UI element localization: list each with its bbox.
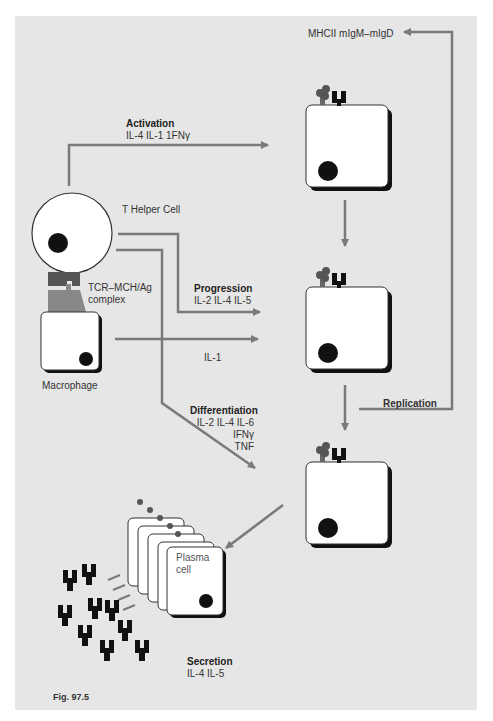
b-cell-3 xyxy=(306,442,392,548)
mhc-label: MHCII mIgM–mIgD xyxy=(308,28,394,40)
b-cell-2 xyxy=(306,267,392,373)
t-helper-label: T Helper Cell xyxy=(122,204,180,216)
il1-label: IL-1 xyxy=(204,352,221,364)
mhc-ag xyxy=(48,284,86,312)
plasma-cell-label: Plasmacell xyxy=(176,552,209,576)
differentiation-label: DifferentiationIL-2 IL-4 IL-6IFNγTNF xyxy=(190,405,254,453)
t-helper-cell xyxy=(32,193,112,273)
tcr-complex-label: TCR–MCH/Agcomplex xyxy=(88,282,152,306)
b-cell-1 xyxy=(306,85,392,191)
figure-caption: Fig. 97.5 xyxy=(53,691,89,703)
activation-arrow xyxy=(69,145,268,186)
arrow-to-plasma xyxy=(226,505,283,548)
activation-label: ActivationIL-4 IL-1 1FNγ xyxy=(126,118,190,142)
b-cell-activation-diagram xyxy=(0,0,493,721)
macrophage-label: Macrophage xyxy=(42,380,98,392)
tcr-receptor xyxy=(48,272,80,286)
replication-label: Replication xyxy=(383,398,437,410)
secretion-label: SecretionIL-4 IL-5 xyxy=(187,656,233,680)
progression-label: ProgressionIL-2 IL-4 IL-5 xyxy=(194,283,252,307)
